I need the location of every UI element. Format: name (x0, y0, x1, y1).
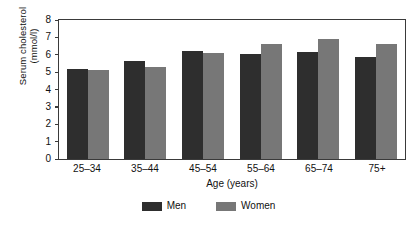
bar-group (124, 20, 166, 159)
bar-group (240, 20, 282, 159)
bars-layer (59, 20, 405, 159)
legend-swatch-women (216, 202, 236, 211)
bar-group (297, 20, 339, 159)
y-axis-tick-label: 0 (37, 152, 51, 165)
y-axis-tick-label: 4 (37, 83, 51, 96)
bar-women (261, 44, 282, 159)
y-axis-title-line1: Serum cholesterol (17, 7, 29, 85)
bar-men (67, 69, 88, 159)
x-axis-tick-label: 75+ (348, 162, 406, 175)
x-axis-tick-label: 55–64 (232, 162, 290, 175)
legend-item-women: Women (216, 200, 275, 212)
y-axis-tick-label: 6 (37, 48, 51, 61)
bar-group (67, 20, 109, 159)
bar-women (203, 53, 224, 159)
bar-men (355, 57, 376, 160)
bar-group (182, 20, 224, 159)
y-axis-tick-label: 8 (37, 13, 51, 26)
bar-men (240, 54, 261, 159)
bar-women (376, 44, 397, 159)
x-axis-tick-labels: 25–3435–4445–5455–6465–7475+ (58, 162, 406, 176)
bar-women (145, 67, 166, 159)
x-axis-tick-label: 25–34 (58, 162, 116, 175)
plot-area: 012345678 (58, 19, 406, 160)
y-axis-tick-label: 3 (37, 100, 51, 113)
x-axis-tick-label: 45–54 (174, 162, 232, 175)
bar-men (182, 51, 203, 159)
y-axis-tick-label: 1 (37, 135, 51, 148)
bar-men (297, 52, 318, 159)
legend-swatch-men (142, 202, 162, 211)
y-axis-tick-label: 2 (37, 117, 51, 130)
y-axis-tick-label: 5 (37, 65, 51, 78)
bar-men (124, 61, 145, 159)
x-axis-title: Age (years) (58, 178, 406, 189)
chart-legend: MenWomen (0, 200, 417, 212)
bar-chart: Serum cholesterol (mmol/l) 012345678 25–… (0, 0, 417, 226)
legend-item-men: Men (142, 200, 186, 212)
bar-women (88, 70, 109, 159)
bar-women (318, 39, 339, 159)
x-axis-tick-label: 65–74 (290, 162, 348, 175)
x-axis-tick-label: 35–44 (116, 162, 174, 175)
legend-label: Men (167, 200, 186, 212)
bar-group (355, 20, 397, 159)
y-axis-tick-label: 7 (37, 30, 51, 43)
legend-label: Women (241, 200, 275, 212)
